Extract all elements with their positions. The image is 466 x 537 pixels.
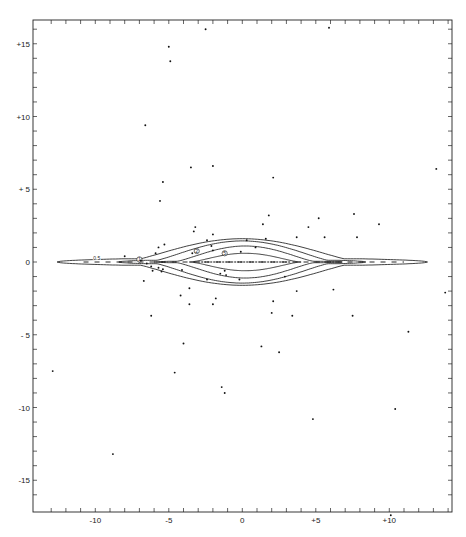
data-point <box>324 236 326 238</box>
data-point <box>219 273 221 275</box>
y-tick-label: +15 <box>16 40 30 49</box>
y-tick-label: 0 <box>26 258 31 267</box>
data-point <box>260 345 262 347</box>
data-point <box>394 408 396 410</box>
data-point <box>193 230 195 232</box>
data-point <box>356 236 358 238</box>
data-point <box>150 265 152 267</box>
data-point <box>318 217 320 219</box>
data-point <box>272 300 274 302</box>
isophote-contours: 0.5125 <box>57 239 427 286</box>
data-point <box>169 60 171 62</box>
data-point <box>278 351 280 353</box>
data-point <box>215 297 217 299</box>
data-point <box>435 168 437 170</box>
data-point <box>143 280 145 282</box>
data-point <box>162 181 164 183</box>
data-point <box>205 28 207 30</box>
data-point <box>268 214 270 216</box>
data-point <box>353 213 355 215</box>
axis-ticks <box>33 20 452 512</box>
data-point <box>378 223 380 225</box>
data-point <box>194 226 196 228</box>
data-point <box>307 226 309 228</box>
data-point <box>144 124 146 126</box>
data-point <box>444 292 446 294</box>
data-point <box>332 289 334 291</box>
data-point <box>212 165 214 167</box>
data-point <box>146 263 148 265</box>
data-point <box>407 331 409 333</box>
data-point <box>188 287 190 289</box>
data-point <box>155 252 157 254</box>
data-point <box>206 279 208 281</box>
data-point <box>161 271 163 273</box>
data-point <box>296 236 298 238</box>
data-point <box>158 267 160 269</box>
data-point <box>240 251 242 253</box>
data-point <box>168 46 170 48</box>
y-tick-label: - 5 <box>21 331 31 340</box>
data-point <box>312 418 314 420</box>
contour-label: 5 <box>223 250 226 256</box>
data-point <box>221 386 223 388</box>
data-point <box>159 200 161 202</box>
data-point <box>212 303 214 305</box>
y-tick-label: + 5 <box>19 185 31 194</box>
data-point <box>140 260 142 262</box>
data-point <box>52 370 54 372</box>
data-point <box>190 166 192 168</box>
data-point <box>150 315 152 317</box>
data-point <box>328 27 330 29</box>
data-point <box>224 270 226 272</box>
x-tick-label: +5 <box>311 516 321 525</box>
data-point <box>272 177 274 179</box>
scatter-points <box>52 27 446 516</box>
data-point <box>158 246 160 248</box>
x-tick-label: 0 <box>240 516 245 525</box>
data-point <box>212 233 214 235</box>
data-point <box>183 343 185 345</box>
data-point <box>162 268 164 270</box>
contour-label: 0.5 <box>93 255 100 261</box>
contour-scatter-chart: 0.5125 -10-50+5+10+15+10+ 50- 5-10-15 <box>0 0 466 537</box>
y-tick-label: +10 <box>16 113 30 122</box>
data-point <box>271 312 273 314</box>
plot-border <box>33 20 452 512</box>
data-point <box>206 239 208 241</box>
plot-frame <box>33 20 452 512</box>
data-point <box>225 274 227 276</box>
data-point <box>352 315 354 317</box>
data-point <box>112 453 114 455</box>
data-point <box>181 269 183 271</box>
data-point <box>152 270 154 272</box>
data-point <box>262 223 264 225</box>
contour-label: 2 <box>195 248 198 254</box>
data-point <box>191 252 193 254</box>
x-tick-label: +10 <box>383 516 397 525</box>
data-point <box>291 315 293 317</box>
x-tick-label: -5 <box>165 516 173 525</box>
data-point <box>174 372 176 374</box>
data-point <box>238 279 240 281</box>
data-point <box>296 290 298 292</box>
data-point <box>180 295 182 297</box>
data-point <box>224 392 226 394</box>
y-tick-label: -10 <box>18 404 30 413</box>
x-tick-label: -10 <box>90 516 102 525</box>
y-tick-label: -15 <box>18 476 30 485</box>
data-point <box>284 276 286 278</box>
data-point <box>265 238 267 240</box>
data-point <box>124 255 126 257</box>
data-point <box>188 303 190 305</box>
data-point <box>163 244 165 246</box>
data-point <box>212 249 214 251</box>
data-point <box>210 245 212 247</box>
data-point <box>255 246 257 248</box>
data-point <box>246 239 248 241</box>
